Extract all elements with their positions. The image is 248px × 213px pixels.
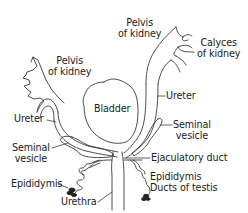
urethra [112,152,124,210]
label-seminal-right: Seminal vesicle [173,120,211,141]
left-vas-deferens-inner [81,163,100,175]
label-ducts-of-testis: Ducts of testis [150,183,217,194]
right-ureter [124,84,158,158]
label-pelvis-left: Pelvis of kidney [48,56,91,77]
label-urethra: Urethra [61,197,97,208]
label-epididymis-left: Epididymis [11,179,62,190]
label-pelvis-right-line2: of kidney [118,29,161,40]
right-vas-deferens-inner [133,160,145,174]
label-seminal-left-line2: vesicle [12,154,50,165]
label-seminal-right-line1: Seminal [173,120,211,131]
label-ureter-right: Ureter [166,91,196,102]
label-pelvis-left-line1: Pelvis [48,56,91,67]
right-testis-ducts [142,194,150,200]
left-seminal-vesicle [60,136,114,157]
left-vas-deferens [74,160,100,194]
label-seminal-left: Seminal vesicle [12,143,50,164]
urogenital-diagram: Pelvis of kidney Pelvis of kidney Calyce… [0,0,248,213]
right-vas-deferens [130,160,150,196]
label-pelvis-right-line1: Pelvis [118,18,161,29]
label-ejaculatory-duct: Ejaculatory duct [151,153,227,164]
label-pelvis-left-line2: of kidney [48,67,91,78]
leader-urethra [98,192,112,202]
label-calyces-line2: of kidney [197,49,240,60]
label-seminal-left-line1: Seminal [12,143,50,154]
label-pelvis-right: Pelvis of kidney [118,18,161,39]
label-ureter-left: Ureter [14,114,44,125]
label-calyces: Calyces of kidney [197,38,240,59]
label-bladder: Bladder [94,104,130,115]
leader-ureter-left [47,120,56,122]
label-calyces-line1: Calyces [197,38,240,49]
leader-seminal-left [52,143,68,148]
label-epididymis-right: Epididymis [150,172,201,183]
label-seminal-right-line2: vesicle [173,131,211,142]
